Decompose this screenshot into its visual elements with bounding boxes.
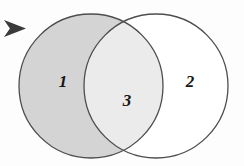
region-label-right-only: 2 xyxy=(185,72,195,91)
region-label-intersection: 3 xyxy=(122,91,132,110)
venn-diagram-canvas: 1 3 2 xyxy=(0,0,244,166)
region-label-left-only: 1 xyxy=(59,72,68,91)
venn-diagram-figure: 1 3 2 xyxy=(0,0,244,166)
